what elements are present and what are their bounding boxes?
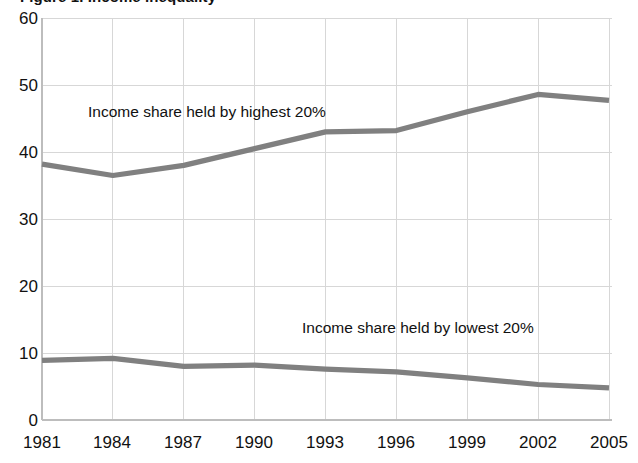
income-inequality-chart: Figure 1. Income inequality 60 50 40 30 xyxy=(0,0,638,463)
x-tick-2002: 2002 xyxy=(519,434,557,451)
y-axis-ticks: 60 50 40 30 20 10 0 xyxy=(0,0,38,463)
y-tick-10: 10 xyxy=(4,345,38,362)
x-tick-1981: 1981 xyxy=(23,434,61,451)
y-tick-60: 60 xyxy=(4,10,38,27)
x-tick-1990: 1990 xyxy=(235,434,273,451)
plot-area xyxy=(0,0,638,463)
x-tick-1987: 1987 xyxy=(164,434,202,451)
x-tick-1993: 1993 xyxy=(306,434,344,451)
x-tick-1999: 1999 xyxy=(448,434,486,451)
series-annotation-highest-20: Income share held by highest 20% xyxy=(88,104,326,120)
y-tick-20: 20 xyxy=(4,278,38,295)
series-annotation-lowest-20: Income share held by lowest 20% xyxy=(302,320,534,336)
x-tick-2005: 2005 xyxy=(590,434,628,451)
x-tick-1984: 1984 xyxy=(93,434,131,451)
y-tick-0: 0 xyxy=(4,412,38,429)
y-tick-40: 40 xyxy=(4,144,38,161)
x-tick-1996: 1996 xyxy=(377,434,415,451)
y-tick-50: 50 xyxy=(4,77,38,94)
y-tick-30: 30 xyxy=(4,211,38,228)
